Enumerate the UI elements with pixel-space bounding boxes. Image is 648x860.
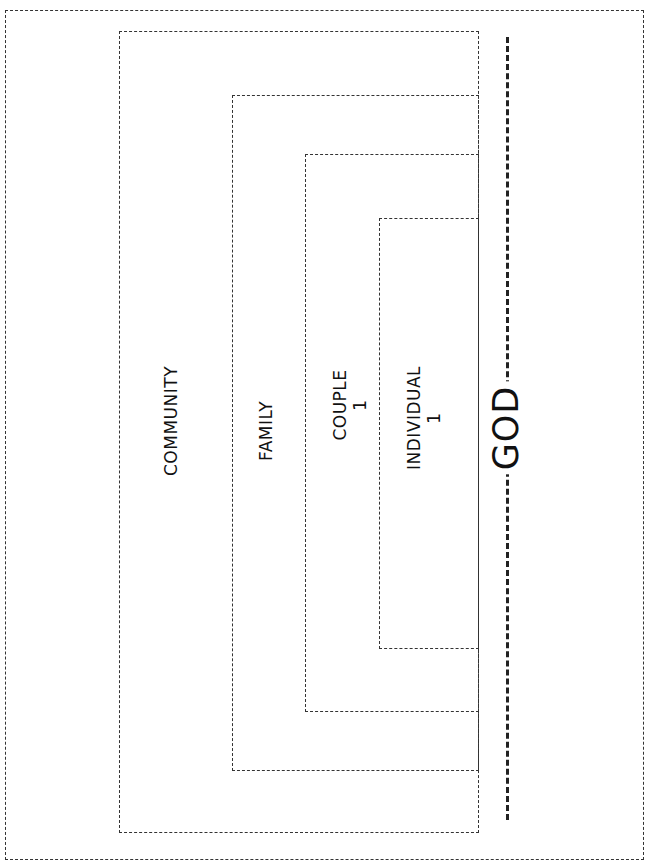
community-label-text: COMMUNITY [161,366,181,476]
community-label: COMMUNITY [162,366,182,476]
couple-label: COUPLE 1 [331,369,370,440]
individual-count: 1 [425,366,445,470]
couple-count: 1 [351,369,371,440]
couple-label-text: COUPLE [330,369,350,440]
family-label: FAMILY [257,401,277,461]
family-label-text: FAMILY [256,401,276,461]
individual-label-text: INDIVIDUAL [404,366,424,470]
individual-label: INDIVIDUAL 1 [405,366,444,470]
god-label: GOD [489,382,524,475]
